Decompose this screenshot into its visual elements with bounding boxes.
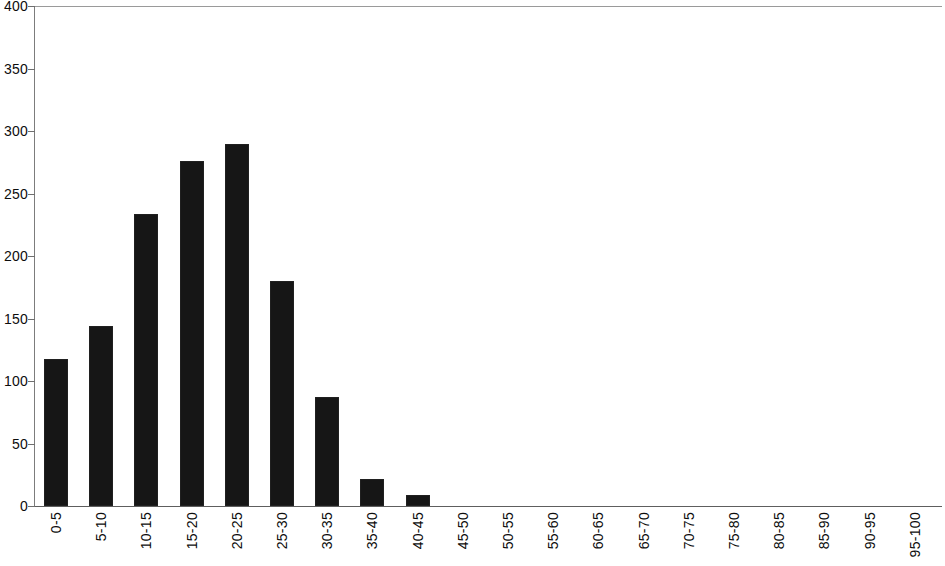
bar	[225, 144, 249, 507]
x-axis-tick-label-text: 90-95	[863, 512, 877, 549]
x-axis-tick-label-text: 65-70	[637, 512, 651, 549]
x-axis-tick-label: 75-80	[722, 512, 746, 566]
histogram-chart: 050100150200250300350400 0-55-1010-1515-…	[0, 0, 945, 566]
x-axis-tick-label-text: 60-65	[591, 512, 605, 549]
x-axis-tick-label: 95-100	[903, 512, 927, 566]
bar	[180, 161, 204, 506]
x-axis-tick-label-text: 70-75	[682, 512, 696, 549]
x-axis-tick-label-text: 20-25	[230, 512, 244, 549]
bar	[406, 495, 430, 506]
x-axis-tick-label: 20-25	[225, 512, 249, 566]
x-axis-tick-label: 25-30	[270, 512, 294, 566]
x-axis-tick-label-text: 15-20	[185, 512, 199, 549]
x-axis-tick-label: 55-60	[541, 512, 565, 566]
x-axis-tick-label: 5-10	[89, 512, 113, 566]
x-axis-tick-label: 85-90	[812, 512, 836, 566]
x-axis-tick-label: 70-75	[677, 512, 701, 566]
x-axis-tick-label-text: 0-5	[49, 512, 63, 533]
x-axis-tick-label: 15-20	[180, 512, 204, 566]
x-axis-tick-label: 0-5	[44, 512, 68, 566]
x-axis-tick-label: 50-55	[496, 512, 520, 566]
x-axis-tick-label-text: 10-15	[139, 512, 153, 549]
x-axis-tick-label: 90-95	[858, 512, 882, 566]
x-axis-tick-label: 80-85	[767, 512, 791, 566]
x-axis-tick-label: 30-35	[315, 512, 339, 566]
x-axis-tick-label-text: 5-10	[94, 512, 108, 541]
bar	[360, 479, 384, 507]
x-axis-tick-label-text: 95-100	[908, 512, 922, 557]
x-axis-tick-label: 60-65	[586, 512, 610, 566]
x-axis-tick-label: 45-50	[451, 512, 475, 566]
x-axis-tick-label-text: 30-35	[320, 512, 334, 549]
bar	[270, 281, 294, 506]
x-axis-tick-label-text: 45-50	[456, 512, 470, 549]
x-axis-tick-label-text: 40-45	[411, 512, 425, 549]
x-axis-tick-label: 35-40	[360, 512, 384, 566]
x-axis-tick-label-text: 80-85	[772, 512, 786, 549]
x-axis-tick-label-text: 75-80	[727, 512, 741, 549]
x-axis-tick-label-text: 35-40	[365, 512, 379, 549]
bar	[315, 397, 339, 506]
x-axis-tick-label: 40-45	[406, 512, 430, 566]
bar-series	[0, 0, 945, 566]
x-axis-tick-label-text: 85-90	[817, 512, 831, 549]
x-axis-tick-label-text: 50-55	[501, 512, 515, 549]
x-axis-tick-label-text: 25-30	[275, 512, 289, 549]
bar	[89, 326, 113, 506]
x-axis-tick-label: 10-15	[134, 512, 158, 566]
x-axis-tick-label-text: 55-60	[546, 512, 560, 549]
x-axis-tick-label: 65-70	[632, 512, 656, 566]
bar	[44, 359, 68, 507]
bar	[134, 214, 158, 507]
